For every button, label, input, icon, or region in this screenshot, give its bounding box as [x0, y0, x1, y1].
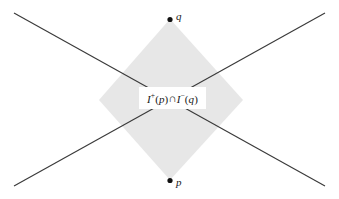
causal-diamond-figure: q p I+(p)∩I−(q) — [0, 0, 339, 199]
intersection-operator-icon: ∩ — [168, 92, 176, 104]
point-marker-q — [167, 17, 172, 22]
point-marker-p — [167, 178, 172, 183]
region-label-second-close-paren: ) — [194, 92, 198, 104]
region-label-backdrop: I+(p)∩I−(q) — [139, 87, 206, 109]
point-label-q: q — [176, 11, 182, 22]
point-label-p: p — [176, 177, 182, 188]
region-label: I+(p)∩I−(q) — [147, 92, 198, 105]
